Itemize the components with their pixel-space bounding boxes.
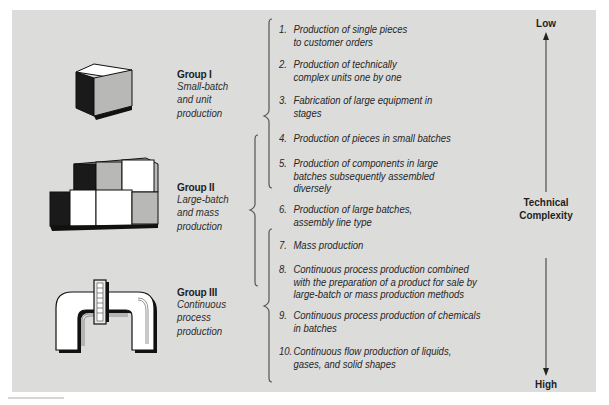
axis-title: Technical Complexity <box>519 196 573 222</box>
item-5-line-2: batches subsequently assembled <box>279 170 438 183</box>
stacked-cubes-icon <box>48 154 158 232</box>
item-6-line-2: assembly line type <box>279 216 412 229</box>
item-2-line-1: Production of technically <box>293 58 396 70</box>
item-6-line-1: Production of large batches, <box>293 203 412 215</box>
list-item-5: 5.Production of components in large batc… <box>279 157 438 195</box>
group-2-label: Group II Large-batch and mass production <box>177 181 236 233</box>
pipe-flange-icon <box>52 280 156 352</box>
axis-title-line-1: Technical <box>519 196 573 209</box>
list-item-1: 1.Production of single pieces to custome… <box>279 23 407 48</box>
group-3-label: Group III Continuous process production <box>177 286 233 338</box>
item-6-number: 6. <box>279 203 293 216</box>
list-item-7: 7.Mass production <box>279 239 363 252</box>
group-1-title: Group I <box>177 68 228 80</box>
item-7-line-1: Mass production <box>293 239 363 251</box>
group-3-subtitle-line-1: Continuous <box>177 298 226 311</box>
item-9-line-2: in batches <box>279 322 480 335</box>
group-3-title: Group III <box>177 286 226 298</box>
item-8-number: 8. <box>279 263 293 276</box>
list-item-4: 4.Production of pieces in small batches <box>279 132 451 145</box>
footer-rule <box>8 397 64 399</box>
group-2-subtitle-line-2: and mass <box>177 206 229 219</box>
item-3-line-1: Fabrication of large equipment in <box>293 94 432 106</box>
list-item-2: 2.Production of technically complex unit… <box>279 58 402 83</box>
item-8-line-3: large-batch or mass production methods <box>279 288 477 301</box>
axis-low-label: Low <box>528 17 564 29</box>
item-7-number: 7. <box>279 239 293 252</box>
single-cube-icon <box>74 62 134 120</box>
list-item-8: 8.Continuous process production combined… <box>279 263 477 301</box>
item-8-line-2: with the preparation of a product for sa… <box>279 276 477 289</box>
group-2-subtitle-line-3: production <box>177 220 229 233</box>
item-1-line-2: to customer orders <box>279 36 407 49</box>
bracket-group-2-icon <box>248 134 262 288</box>
group-1-subtitle-line-3: production <box>177 107 228 120</box>
axis-high-label: High <box>528 378 564 390</box>
item-4-number: 4. <box>279 132 293 145</box>
group-1-label: Group I Small-batch and unit production <box>177 68 235 120</box>
bracket-group-3-icon <box>262 228 276 384</box>
item-10-line-2: gases, and solid shapes <box>279 358 451 371</box>
group-3-subtitle-line-3: production <box>177 325 226 338</box>
item-1-line-1: Production of single pieces <box>293 23 407 35</box>
group-3-subtitle-line-2: process <box>177 311 226 324</box>
item-9-number: 9. <box>279 309 293 322</box>
item-5-number: 5. <box>279 157 293 170</box>
group-2-subtitle-line-1: Large-batch <box>177 193 229 206</box>
item-8-line-1: Continuous process production combined <box>293 263 468 275</box>
item-3-line-2: stages <box>279 107 432 120</box>
list-item-6: 6.Production of large batches, assembly … <box>279 203 412 228</box>
item-10-number: 10. <box>279 345 293 358</box>
item-9-line-1: Continuous process production of chemica… <box>293 309 480 321</box>
list-item-9: 9.Continuous process production of chemi… <box>279 309 480 334</box>
group-1-subtitle-line-1: Small-batch <box>177 80 228 93</box>
list-item-10: 10.Continuous flow production of liquids… <box>279 345 451 370</box>
bracket-group-1-icon <box>262 18 276 190</box>
item-3-number: 3. <box>279 94 293 107</box>
item-2-number: 2. <box>279 58 293 71</box>
group-2-title: Group II <box>177 181 229 193</box>
item-1-number: 1. <box>279 23 293 36</box>
group-1-subtitle-line-2: and unit <box>177 93 228 106</box>
item-5-line-3: diversely <box>279 182 438 195</box>
item-2-line-2: complex units one by one <box>279 71 402 84</box>
item-4-line-1: Production of pieces in small batches <box>293 132 450 144</box>
item-5-line-1: Production of components in large <box>293 157 438 169</box>
item-10-line-1: Continuous flow production of liquids, <box>293 345 451 357</box>
list-item-3: 3.Fabrication of large equipment in stag… <box>279 94 432 119</box>
axis-title-line-2: Complexity <box>519 209 573 222</box>
